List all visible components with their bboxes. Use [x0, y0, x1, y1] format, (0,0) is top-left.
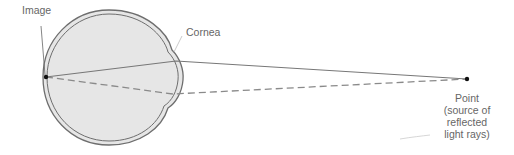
point-label-line: reflected	[427, 116, 507, 128]
point-label-line: (source of	[427, 104, 507, 116]
point-label: Point (source of reflected light rays)	[427, 92, 507, 140]
eye-reflection-diagram: Image Cornea Point (source of reflected …	[0, 0, 514, 155]
image-dot	[44, 75, 48, 79]
image-label: Image	[22, 4, 51, 16]
point-dot	[465, 77, 469, 81]
cornea-label: Cornea	[186, 26, 220, 38]
faint-mark	[400, 135, 430, 139]
eyeball	[43, 10, 183, 145]
point-label-line: light rays)	[427, 128, 507, 140]
cornea-leader-line	[174, 36, 182, 52]
point-label-line: Point	[427, 92, 507, 104]
